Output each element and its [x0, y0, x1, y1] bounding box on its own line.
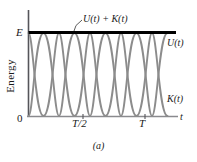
y-tick-label-E: E	[16, 27, 23, 38]
series-label-potential-energy: U(t)	[167, 38, 184, 48]
series-label-total-energy: U(t) + K(t)	[83, 14, 128, 24]
series-label-kinetic-energy: K(t)	[167, 94, 183, 104]
energy-vs-time-figure: Energy E 0 T/2 T t U(t) + K(t) U(t) K(t)…	[0, 0, 197, 162]
figure-caption: (a)	[0, 140, 197, 151]
annotation-leader-line	[74, 20, 82, 31]
plot-area	[0, 0, 197, 162]
x-tick-label-t-half: T/2	[72, 118, 87, 129]
y-axis-label: Energy	[4, 50, 16, 102]
x-axis-label: t	[180, 112, 183, 122]
origin-label: 0	[17, 113, 23, 124]
x-tick-label-t: T	[139, 118, 145, 129]
